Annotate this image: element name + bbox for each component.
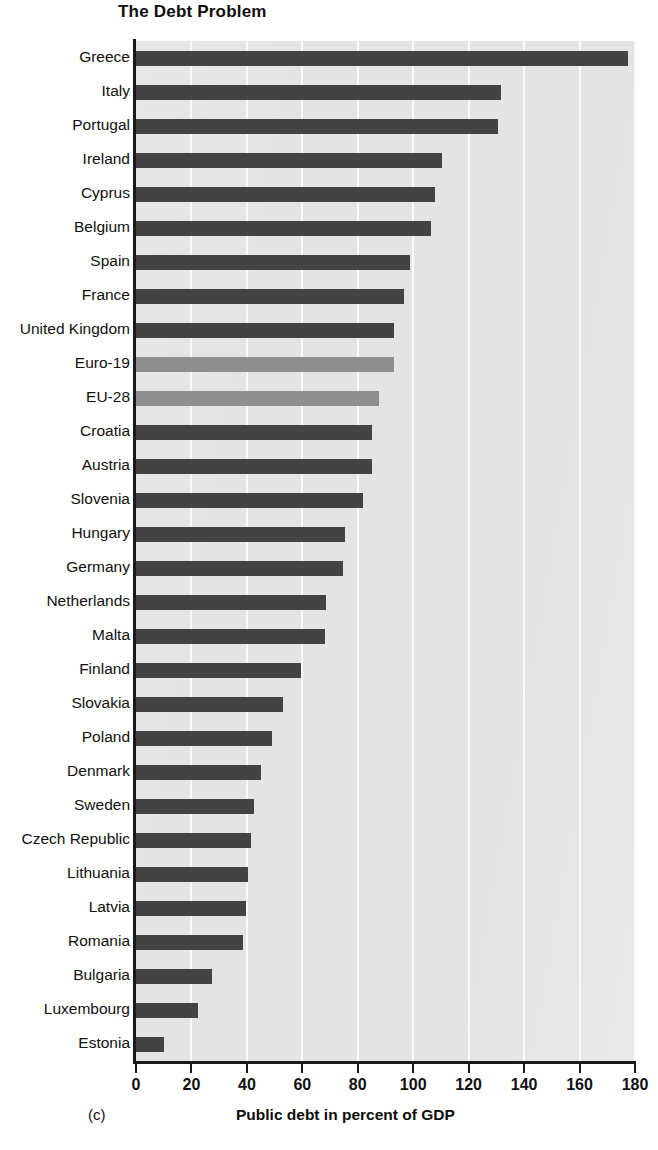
- category-label: Greece: [0, 48, 130, 66]
- x-tick-mark: [634, 1064, 636, 1073]
- bar-row: [136, 619, 635, 653]
- bar-row: [136, 687, 635, 721]
- x-tick-label: 160: [566, 1076, 593, 1094]
- x-tick-label: 40: [238, 1076, 256, 1094]
- category-label: Finland: [0, 660, 130, 678]
- x-tick-mark: [579, 1064, 581, 1073]
- bar-row: [136, 1027, 635, 1061]
- x-tick-mark: [135, 1064, 137, 1073]
- category-label: Denmark: [0, 762, 130, 780]
- chart-title: The Debt Problem: [118, 2, 267, 22]
- x-tick-label: 120: [455, 1076, 482, 1094]
- category-label: Austria: [0, 456, 130, 474]
- bar: [136, 85, 501, 100]
- x-tick-mark: [523, 1064, 525, 1073]
- bar: [136, 153, 442, 168]
- category-label: Czech Republic: [0, 830, 130, 848]
- bar: [136, 119, 498, 134]
- category-label: Belgium: [0, 218, 130, 236]
- bar-row: [136, 381, 635, 415]
- bar-row: [136, 211, 635, 245]
- bar-row: [136, 177, 635, 211]
- bar: [136, 187, 435, 202]
- category-label: Malta: [0, 626, 130, 644]
- bar: [136, 357, 394, 372]
- category-label: Portugal: [0, 116, 130, 134]
- bar-row: [136, 109, 635, 143]
- bar-row: [136, 245, 635, 279]
- x-tick-mark: [412, 1064, 414, 1073]
- x-tick-label: 100: [400, 1076, 427, 1094]
- x-tick-label: 80: [349, 1076, 367, 1094]
- bar: [136, 289, 404, 304]
- bar-row: [136, 517, 635, 551]
- category-label: United Kingdom: [0, 320, 130, 338]
- category-label: Poland: [0, 728, 130, 746]
- bar: [136, 527, 345, 542]
- bar-row: [136, 891, 635, 925]
- bar-row: [136, 755, 635, 789]
- bar-row: [136, 721, 635, 755]
- category-label: Slovakia: [0, 694, 130, 712]
- x-tick-mark: [190, 1064, 192, 1073]
- bar-row: [136, 551, 635, 585]
- debt-problem-chart-figure: The Debt Problem GreeceItalyPortugalIrel…: [0, 0, 658, 1150]
- bar-row: [136, 415, 635, 449]
- bar: [136, 901, 246, 916]
- bar: [136, 221, 431, 236]
- category-label: Cyprus: [0, 184, 130, 202]
- category-label: EU-28: [0, 388, 130, 406]
- bar: [136, 493, 363, 508]
- bar: [136, 629, 325, 644]
- category-label: Germany: [0, 558, 130, 576]
- bar-row: [136, 483, 635, 517]
- x-tick-label: 20: [183, 1076, 201, 1094]
- category-label: Italy: [0, 82, 130, 100]
- bar-row: [136, 857, 635, 891]
- x-tick-mark: [301, 1064, 303, 1073]
- bar: [136, 323, 394, 338]
- category-label: Bulgaria: [0, 966, 130, 984]
- bar: [136, 731, 272, 746]
- bar: [136, 935, 243, 950]
- category-label: France: [0, 286, 130, 304]
- x-tick-mark: [468, 1064, 470, 1073]
- category-label: Spain: [0, 252, 130, 270]
- plot-wrapper: [136, 41, 635, 1061]
- bar: [136, 51, 628, 66]
- category-label: Hungary: [0, 524, 130, 542]
- category-label: Ireland: [0, 150, 130, 168]
- x-tick-label: 60: [293, 1076, 311, 1094]
- bar-row: [136, 789, 635, 823]
- bar-row: [136, 75, 635, 109]
- bar-row: [136, 823, 635, 857]
- bar-row: [136, 279, 635, 313]
- category-label: Luxembourg: [0, 1000, 130, 1018]
- x-tick-label: 180: [622, 1076, 649, 1094]
- x-tick-mark: [246, 1064, 248, 1073]
- x-axis-ticks: 020406080100120140160180: [136, 1064, 635, 1104]
- bar: [136, 1037, 164, 1052]
- bar: [136, 595, 326, 610]
- bar: [136, 459, 372, 474]
- x-axis-title: Public debt in percent of GDP: [236, 1106, 455, 1124]
- bar: [136, 1003, 198, 1018]
- category-label: Slovenia: [0, 490, 130, 508]
- bar-row: [136, 41, 635, 75]
- bar-row: [136, 347, 635, 381]
- bar: [136, 765, 261, 780]
- category-label: Sweden: [0, 796, 130, 814]
- category-axis-labels: GreeceItalyPortugalIrelandCyprusBelgiumS…: [0, 41, 130, 1061]
- bar: [136, 561, 343, 576]
- x-tick-label: 0: [132, 1076, 141, 1094]
- bar: [136, 799, 254, 814]
- x-tick-mark: [357, 1064, 359, 1073]
- panel-letter: (c): [88, 1106, 106, 1123]
- bar-row: [136, 653, 635, 687]
- bar-row: [136, 449, 635, 483]
- bar-row: [136, 313, 635, 347]
- bar: [136, 833, 251, 848]
- category-label: Euro-19: [0, 354, 130, 372]
- bar: [136, 391, 379, 406]
- bar: [136, 255, 410, 270]
